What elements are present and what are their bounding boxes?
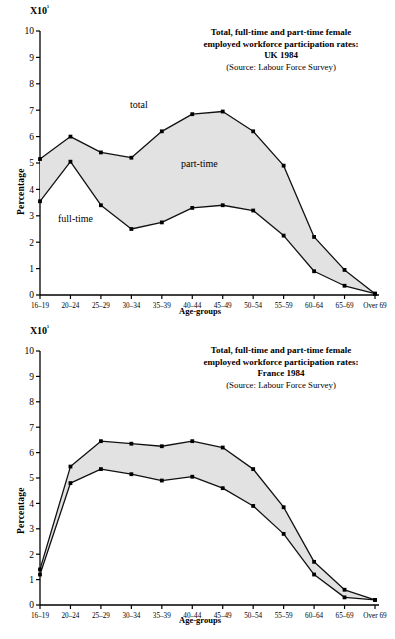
series-annotation-part-time: part-time (181, 158, 218, 169)
chart-france-1984: X10¹ Percentage Total, full-time and par… (0, 319, 395, 639)
data-point-marker (251, 467, 255, 471)
data-point-marker (129, 227, 133, 231)
data-point-marker (221, 446, 225, 450)
plot-area-uk: 01234567891016–1920–2425–2930–3435–3940–… (0, 0, 395, 319)
data-point-marker (160, 221, 164, 225)
data-point-marker (221, 486, 225, 490)
series-annotation-total: total (130, 99, 148, 110)
y-axis-tick-label: 8 (29, 397, 34, 407)
y-axis-tick-label: 1 (29, 575, 34, 585)
data-point-marker (221, 203, 225, 207)
y-axis-tick-label: 1 (29, 264, 34, 274)
y-axis-tick-label: 6 (29, 448, 34, 458)
x-axis-tick-label: Over 69 (363, 302, 387, 310)
x-axis-tick-label: 25–29 (92, 612, 110, 620)
data-point-marker (373, 598, 377, 602)
data-point-marker (312, 269, 316, 273)
x-axis-tick-label: 16–19 (31, 612, 49, 620)
data-point-marker (69, 160, 73, 164)
data-point-marker (99, 203, 103, 207)
x-axis-title: Age-groups (150, 306, 250, 316)
data-point-marker (99, 151, 103, 155)
plot-area-france: 01234567891016–1920–2425–2930–3435–3940–… (0, 319, 395, 639)
data-point-marker (160, 444, 164, 448)
data-point-marker (373, 292, 377, 296)
y-axis-tick-label: 7 (29, 106, 34, 116)
y-axis-tick-label: 5 (29, 473, 34, 483)
data-point-marker (251, 504, 255, 508)
y-axis-tick-label: 10 (25, 26, 35, 36)
data-point-marker (312, 560, 316, 564)
y-axis-tick-label: 2 (29, 238, 34, 248)
data-point-marker (129, 442, 133, 446)
series-annotation-full-time: full-time (58, 213, 94, 224)
x-axis-tick-label: 20–24 (61, 612, 79, 620)
chart-uk-1984: X10¹ Percentage Total, full-time and par… (0, 0, 395, 319)
y-axis-tick-label: 8 (29, 79, 34, 89)
data-point-marker (251, 209, 255, 213)
y-axis-tick-label: 2 (29, 550, 34, 560)
x-axis-tick-label: 20–24 (61, 302, 79, 310)
data-point-marker (190, 439, 194, 443)
data-point-marker (221, 110, 225, 114)
x-axis-tick-label: 30–34 (122, 302, 140, 310)
part-time-shaded-band (40, 112, 375, 294)
data-point-marker (99, 439, 103, 443)
data-point-marker (190, 112, 194, 116)
y-axis-tick-label: 4 (29, 185, 34, 195)
x-axis-tick-label: 55–59 (275, 302, 293, 310)
x-axis-tick-label: 60–64 (305, 612, 323, 620)
x-axis-tick-label: 55–59 (275, 612, 293, 620)
data-point-marker (69, 135, 73, 139)
x-axis-tick-label: 60–64 (305, 302, 323, 310)
data-point-marker (282, 532, 286, 536)
y-axis-tick-label: 0 (29, 290, 34, 300)
data-point-marker (69, 465, 73, 469)
data-point-marker (190, 206, 194, 210)
x-axis-tick-label: 30–34 (122, 612, 140, 620)
data-point-marker (160, 129, 164, 133)
data-point-marker (282, 234, 286, 238)
data-point-marker (190, 475, 194, 479)
y-axis-tick-label: 3 (29, 524, 34, 534)
part-time-shaded-band (40, 441, 375, 600)
data-point-marker (99, 467, 103, 471)
data-point-marker (160, 479, 164, 483)
x-axis-title: Age-groups (150, 615, 250, 625)
y-axis-tick-label: 0 (29, 600, 34, 610)
data-point-marker (38, 573, 42, 577)
data-point-marker (343, 595, 347, 599)
x-axis-tick-label: 25–29 (92, 302, 110, 310)
x-axis-tick-label: 16–19 (31, 302, 49, 310)
data-point-marker (282, 505, 286, 509)
data-point-marker (251, 129, 255, 133)
y-axis-tick-label: 10 (25, 346, 35, 356)
data-point-marker (312, 573, 316, 577)
data-point-marker (343, 284, 347, 288)
data-point-marker (282, 164, 286, 168)
data-point-marker (312, 235, 316, 239)
y-axis-tick-label: 9 (29, 53, 34, 63)
x-axis-tick-label: Over 69 (363, 612, 387, 620)
data-point-marker (38, 157, 42, 161)
y-axis-tick-label: 6 (29, 132, 34, 142)
data-point-marker (343, 588, 347, 592)
data-point-marker (129, 472, 133, 476)
y-axis-tick-label: 3 (29, 211, 34, 221)
y-axis-tick-label: 9 (29, 372, 34, 382)
y-axis-tick-label: 4 (29, 499, 34, 509)
data-point-marker (38, 199, 42, 203)
y-axis-tick-label: 7 (29, 423, 34, 433)
data-point-marker (129, 156, 133, 160)
y-axis-tick-label: 5 (29, 158, 34, 168)
data-point-marker (69, 481, 73, 485)
x-axis-tick-label: 65–69 (336, 302, 354, 310)
x-axis-tick-label: 65–69 (336, 612, 354, 620)
data-point-marker (343, 268, 347, 272)
